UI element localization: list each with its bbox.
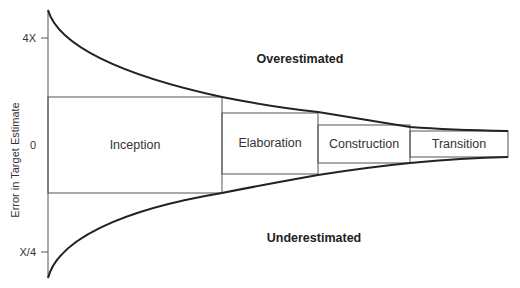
underestimated-label: Underestimated (267, 231, 361, 245)
y-tick-label-4x: 4X (23, 32, 37, 44)
overestimated-label: Overestimated (257, 52, 344, 66)
y-axis-title: Error in Target Estimate (9, 102, 21, 217)
phase-label-inception: Inception (110, 138, 161, 152)
phase-label-construction: Construction (329, 137, 399, 151)
phase-label-transition: Transition (432, 137, 486, 151)
y-tick-label-x4: X/4 (19, 246, 36, 258)
y-tick-label-zero: 0 (30, 139, 36, 151)
phase-label-elaboration: Elaboration (238, 136, 301, 150)
lower-bound-curve (48, 157, 508, 278)
cone-of-uncertainty-diagram: 4X 0 X/4 Error in Target Estimate Incept… (0, 0, 520, 288)
